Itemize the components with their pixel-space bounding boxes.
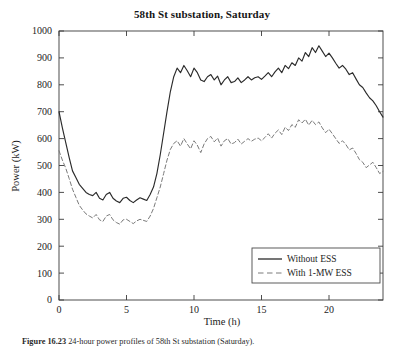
x-tick-label: 0 xyxy=(57,304,62,315)
figure-caption-text: 24-hour power profiles of 58th St substa… xyxy=(68,337,254,346)
x-tick-label: 20 xyxy=(324,304,334,315)
legend-label-1: Without ESS xyxy=(287,254,337,264)
legend-label-2: With 1-MW ESS xyxy=(287,268,352,278)
figure-caption-label: Figure 16.23 xyxy=(22,337,66,346)
y-tick-label: 700 xyxy=(37,106,52,117)
y-tick-label: 400 xyxy=(37,187,52,198)
power-profile-chart: 01002003004005006007008009001000 0510152… xyxy=(0,0,404,330)
y-axis-title: Power (kW) xyxy=(10,140,22,192)
y-tick-label: 0 xyxy=(47,294,52,305)
figure-caption: Figure 16.23 24-hour power profiles of 5… xyxy=(22,336,394,347)
y-tick-label: 800 xyxy=(37,79,52,90)
y-tick-label: 600 xyxy=(37,133,52,144)
figure-container: 58th St substation, Saturday 01002003004… xyxy=(0,0,404,350)
chart-legend[interactable]: Without ESSWith 1-MW ESS xyxy=(252,248,380,283)
y-tick-label: 900 xyxy=(37,52,52,63)
y-tick-label: 200 xyxy=(37,241,52,252)
y-tick-label: 300 xyxy=(37,214,52,225)
y-tick-label: 1000 xyxy=(32,25,52,36)
x-tick-label: 15 xyxy=(257,304,267,315)
y-tick-label: 100 xyxy=(37,268,52,279)
y-tick-label: 500 xyxy=(37,160,52,171)
x-axis-title: Time (h) xyxy=(204,316,241,328)
x-tick-label: 5 xyxy=(124,304,129,315)
x-tick-label: 10 xyxy=(189,304,199,315)
